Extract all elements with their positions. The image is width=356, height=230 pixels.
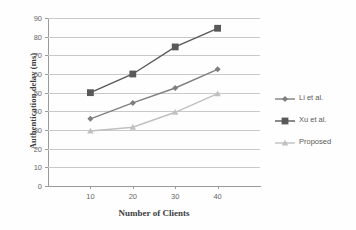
legend-label: Proposed — [299, 137, 331, 146]
legend-label: Xu et al. — [299, 115, 327, 124]
data-point — [87, 116, 93, 122]
y-tick-mark — [45, 37, 48, 38]
x-tick-mark — [90, 186, 91, 189]
x-tick-label: 10 — [86, 192, 94, 201]
data-point — [172, 85, 178, 91]
chart-legend: Li et al.Xu et al.Proposed — [274, 86, 356, 152]
legend-marker-diamond-icon — [274, 91, 296, 103]
plot-area — [48, 18, 260, 186]
legend-item[interactable]: Proposed — [274, 130, 356, 152]
y-tick-mark — [45, 130, 48, 131]
x-tick-label: 40 — [213, 192, 221, 201]
legend-marker-triangle-icon — [274, 135, 296, 147]
x-tick-mark — [218, 186, 219, 189]
y-tick-mark — [45, 55, 48, 56]
y-tick-label: 30 — [34, 126, 42, 135]
series-line — [90, 69, 217, 118]
y-tick-label: 60 — [34, 70, 42, 79]
legend-label: Li et al. — [299, 93, 323, 102]
y-tick-mark — [45, 186, 48, 187]
data-point — [215, 66, 221, 72]
series-line — [90, 28, 217, 92]
y-tick-mark — [45, 18, 48, 19]
y-tick-label: 40 — [34, 107, 42, 116]
data-point — [214, 90, 220, 96]
x-tick-label: 30 — [171, 192, 179, 201]
x-axis-title: Number of Clients — [48, 208, 260, 218]
data-point — [129, 71, 136, 78]
legend-item[interactable]: Xu et al. — [274, 108, 356, 130]
y-tick-label: 70 — [34, 51, 42, 60]
series-li-et-al — [87, 66, 220, 121]
y-tick-label: 50 — [34, 88, 42, 97]
legend-marker-square-icon — [274, 113, 296, 125]
x-axis-line — [48, 186, 261, 187]
x-tick-mark — [175, 186, 176, 189]
y-tick-mark — [45, 111, 48, 112]
y-tick-label: 80 — [34, 32, 42, 41]
y-tick-label: 0 — [38, 182, 42, 191]
y-axis-title: Authentication delay (ms) — [28, 16, 38, 186]
data-point — [214, 25, 221, 32]
y-tick-mark — [45, 93, 48, 94]
y-tick-mark — [45, 149, 48, 150]
data-point — [130, 100, 136, 106]
y-tick-mark — [45, 167, 48, 168]
data-point — [87, 89, 94, 96]
y-tick-label: 20 — [34, 144, 42, 153]
y-tick-label: 10 — [34, 163, 42, 172]
legend-item[interactable]: Li et al. — [274, 86, 356, 108]
data-point — [172, 44, 179, 51]
series-plot — [48, 18, 260, 186]
x-tick-mark — [133, 186, 134, 189]
y-tick-label: 90 — [34, 14, 42, 23]
x-tick-label: 20 — [129, 192, 137, 201]
chart-container: Authentication delay (ms) 01020304050607… — [0, 0, 356, 230]
series-xu-et-al — [87, 25, 221, 96]
y-tick-mark — [45, 74, 48, 75]
